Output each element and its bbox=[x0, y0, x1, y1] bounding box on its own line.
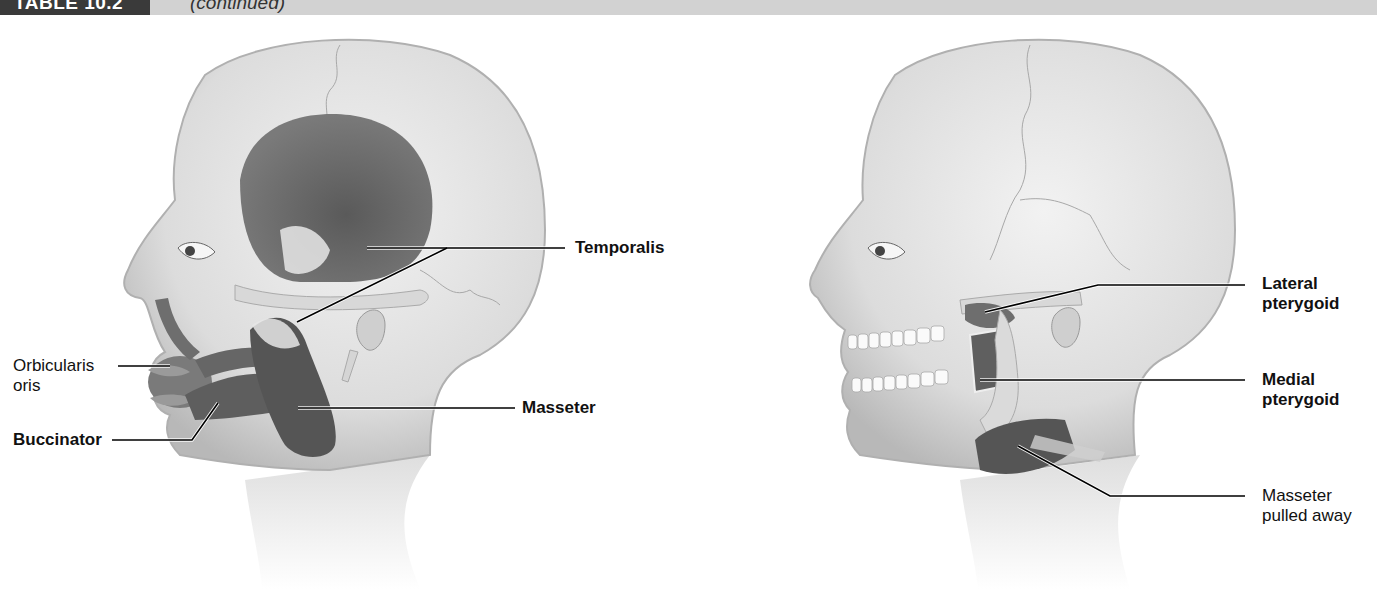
label-medial-line1: Medial bbox=[1262, 370, 1339, 390]
label-medial-pterygoid: Medial pterygoid bbox=[1262, 370, 1339, 410]
right-head-figure bbox=[810, 40, 1245, 589]
label-temporalis: Temporalis bbox=[575, 238, 664, 258]
label-masseter-pulled-line2: pulled away bbox=[1262, 506, 1352, 526]
label-lateral-line2: pterygoid bbox=[1262, 294, 1339, 314]
label-masseter: Masseter bbox=[522, 398, 596, 418]
label-masseter-pulled-line1: Masseter bbox=[1262, 486, 1352, 506]
anatomy-illustration bbox=[0, 0, 1377, 589]
label-lateral-line1: Lateral bbox=[1262, 274, 1339, 294]
label-medial-line2: pterygoid bbox=[1262, 390, 1339, 410]
label-masseter-pulled-away: Masseter pulled away bbox=[1262, 486, 1352, 526]
label-lateral-pterygoid: Lateral pterygoid bbox=[1262, 274, 1339, 314]
label-orbicularis-line2: oris bbox=[13, 376, 94, 396]
label-buccinator: Buccinator bbox=[13, 430, 102, 450]
label-orbicularis-oris: Orbicularis oris bbox=[13, 356, 94, 396]
left-head-figure bbox=[112, 40, 565, 589]
label-orbicularis-line1: Orbicularis bbox=[13, 356, 94, 376]
temporalis-muscle bbox=[240, 114, 432, 282]
